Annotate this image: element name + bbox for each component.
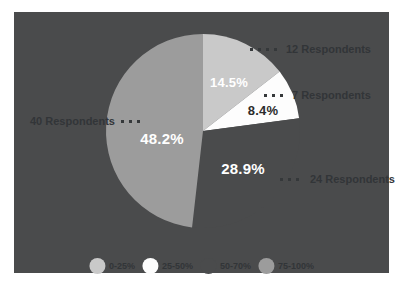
legend-label: 75-100% [278,261,314,271]
callout-label: 12 Respondents [286,43,371,55]
legend-item-75-100: 75-100% [258,258,314,274]
chart-panel: 14.5% 8.4% 28.9% 48.2% 12 Respondents 7 … [14,12,389,273]
callout-24-respondents: 24 Respondents [280,173,395,185]
legend-swatch [258,258,274,274]
legend-label: 50-70% [220,261,251,271]
callout-12-respondents: 12 Respondents [250,43,371,55]
legend-label: 0-25% [109,261,135,271]
percent-label-0-25: 14.5% [210,75,248,90]
legend-item-25-50: 25-50% [142,258,193,274]
percent-label-50-70: 28.9% [221,160,265,177]
legend-item-0-25: 0-25% [89,258,135,274]
percent-label-75-100: 48.2% [140,130,184,147]
leader-line [121,120,143,123]
leader-line [264,94,286,97]
page: 14.5% 8.4% 28.9% 48.2% 12 Respondents 7 … [0,0,403,291]
legend-label: 25-50% [162,261,193,271]
callout-label: 7 Respondents [292,89,371,101]
leader-line [280,178,304,181]
leader-line [250,48,280,51]
callout-7-respondents: 7 Respondents [264,89,371,101]
callout-label: 24 Respondents [310,173,395,185]
legend-item-50-70: 50-70% [200,258,251,274]
legend-swatch [200,258,216,274]
legend-swatch [142,258,158,274]
percent-label-25-50: 8.4% [248,103,278,118]
callout-40-respondents: 40 Respondents [30,115,143,127]
legend: 0-25% 25-50% 50-70% 75-100% [89,258,314,274]
legend-swatch [89,258,105,274]
callout-label: 40 Respondents [30,115,115,127]
